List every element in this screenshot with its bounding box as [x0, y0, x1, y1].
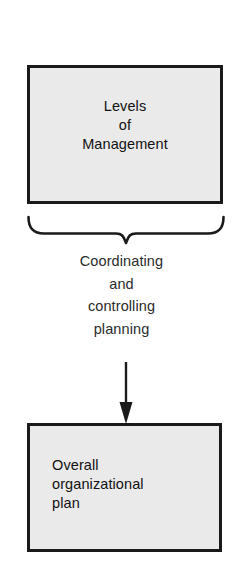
caption-line-2: and	[0, 273, 243, 296]
box-overall-organizational-plan: Overall organizational plan	[27, 423, 222, 552]
box-overall-organizational-plan-text: Overall organizational plan	[52, 456, 211, 513]
diagram-canvas: Levels of Management Coordinating and co…	[0, 0, 243, 566]
curly-brace-icon	[24, 212, 228, 248]
caption-line-4: planning	[0, 318, 243, 341]
caption-line-1: Coordinating	[0, 250, 243, 273]
box-levels-line-3: Management	[30, 135, 220, 154]
box-overall-line-2: organizational	[52, 475, 211, 494]
box-overall-line-1: Overall	[52, 456, 211, 475]
caption-coordinating-controlling-planning: Coordinating and controlling planning	[0, 250, 243, 340]
box-levels-of-management-text: Levels of Management	[30, 97, 220, 154]
box-overall-line-3: plan	[52, 494, 211, 513]
caption-line-3: controlling	[0, 295, 243, 318]
box-levels-line-2: of	[30, 116, 220, 135]
box-levels-of-management: Levels of Management	[27, 65, 223, 204]
arrow-down-icon	[108, 358, 144, 426]
box-levels-line-1: Levels	[30, 97, 220, 116]
